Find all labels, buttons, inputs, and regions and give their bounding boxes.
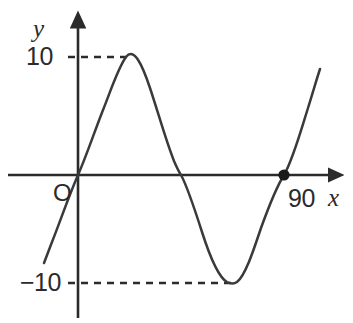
y-tick-label-negative-10: −10 — [20, 270, 61, 295]
marked-point-90 — [278, 169, 289, 180]
y-axis-label: y — [33, 16, 44, 41]
y-tick-label-10: 10 — [26, 44, 53, 69]
graph-figure: y 10 −10 O 90 x — [0, 0, 353, 323]
x-tick-label-90: 90 — [288, 186, 315, 211]
x-axis-label: x — [328, 185, 339, 210]
sine-curve — [44, 54, 320, 283]
origin-label: O — [53, 181, 72, 205]
